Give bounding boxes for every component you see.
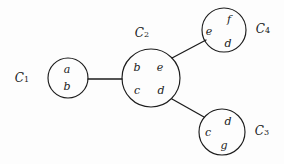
node-letter: b <box>63 80 70 93</box>
cluster-graph-diagram: a b b e c d f e d d c g C1 C2 C3 C4 <box>0 0 284 164</box>
cluster-label-group: C1 C2 C3 C4 <box>15 22 270 138</box>
node-letter: f <box>226 13 233 26</box>
cluster-label-subscript: 4 <box>265 26 270 35</box>
edge-c2-c3 <box>172 99 204 117</box>
cluster-node-c1[interactable]: a b <box>48 58 88 98</box>
node-letter: a <box>64 63 71 76</box>
cluster-label-c3: C3 <box>255 124 269 138</box>
cluster-label-base: C <box>255 124 264 138</box>
node-letter: e <box>206 25 213 38</box>
cluster-label-subscript: 3 <box>264 128 269 137</box>
node-letter: e <box>157 61 164 74</box>
node-letter: b <box>133 61 140 74</box>
cluster-node-c4[interactable]: f e d <box>202 8 246 52</box>
node-letter: c <box>205 126 211 139</box>
cluster-label-c2: C2 <box>135 26 149 40</box>
cluster-label-base: C <box>135 26 144 40</box>
edge-c2-c4 <box>172 40 206 58</box>
node-letter: d <box>224 115 231 128</box>
cluster-circle-c2 <box>122 49 180 107</box>
node-letter: g <box>220 139 227 152</box>
cluster-label-c1: C1 <box>15 71 29 85</box>
cluster-label-subscript: 1 <box>24 75 29 84</box>
cluster-node-c2[interactable]: b e c d <box>122 49 180 107</box>
cluster-label-subscript: 2 <box>144 30 149 39</box>
graph-canvas: a b b e c d f e d d c g C1 C2 C3 C4 <box>0 0 284 164</box>
node-letter: c <box>134 84 140 97</box>
node-letter: d <box>157 84 164 97</box>
cluster-label-c4: C4 <box>256 22 270 36</box>
cluster-node-c3[interactable]: d c g <box>199 109 245 155</box>
node-letter: d <box>224 37 231 50</box>
edge-group <box>88 40 206 117</box>
cluster-label-base: C <box>256 22 265 36</box>
cluster-label-base: C <box>15 71 24 85</box>
